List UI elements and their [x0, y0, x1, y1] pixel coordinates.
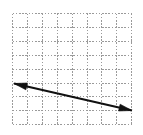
graph-figure-canvas [0, 0, 143, 135]
figure-background [0, 0, 143, 135]
figure-root: Line with negative slope drawn on graph … [0, 0, 143, 135]
